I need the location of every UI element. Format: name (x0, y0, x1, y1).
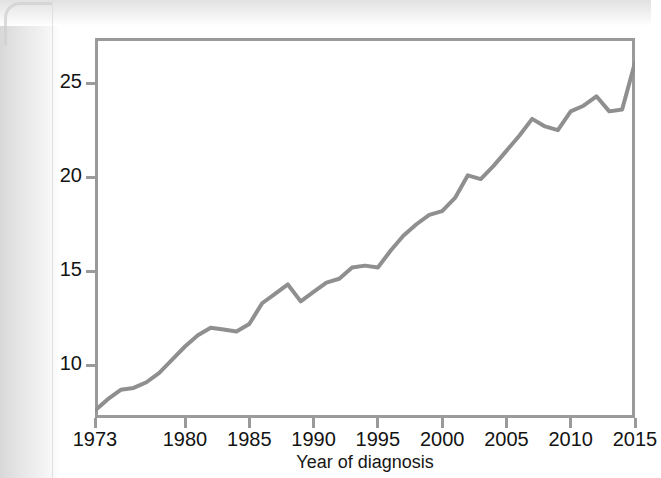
y-tick-mark (86, 82, 95, 85)
x-tick-label: 1995 (343, 428, 413, 450)
y-tick-label: 25 (38, 71, 82, 93)
x-tick-label: 2000 (407, 428, 477, 450)
x-tick-label: 2005 (471, 428, 541, 450)
x-tick-label: 1973 (60, 428, 130, 450)
y-tick-label-text: 15 (42, 259, 82, 279)
x-tick-mark (505, 418, 508, 428)
x-tick-label: 1990 (279, 428, 349, 450)
y-tick-mark (86, 176, 95, 179)
y-tick-label: 20 (38, 165, 82, 187)
y-tick-label-text: 10 (42, 353, 82, 373)
y-tick-label-text: 20 (42, 165, 82, 185)
x-tick-label: 2010 (536, 428, 606, 450)
y-tick-mark (86, 364, 95, 367)
y-tick-mark (86, 270, 95, 273)
y-tick-label-text: 25 (42, 71, 82, 91)
x-tick-mark (248, 418, 251, 428)
y-tick-label: 15 (38, 259, 82, 281)
scan-page-corner (4, 2, 53, 45)
x-tick-mark (569, 418, 572, 428)
x-tick-label: 1985 (214, 428, 284, 450)
x-tick-mark (634, 418, 637, 428)
incidence-line-plot (95, 38, 635, 418)
x-tick-label: 1980 (150, 428, 220, 450)
x-tick-mark (94, 418, 97, 428)
incidence-line-series (95, 62, 635, 410)
x-tick-mark (376, 418, 379, 428)
x-tick-mark (441, 418, 444, 428)
x-axis-title: Year of diagnosis (95, 452, 635, 473)
y-tick-label: 10 (38, 353, 82, 375)
x-tick-mark (312, 418, 315, 428)
x-tick-label: 2015 (600, 428, 661, 450)
x-tick-mark (184, 418, 187, 428)
